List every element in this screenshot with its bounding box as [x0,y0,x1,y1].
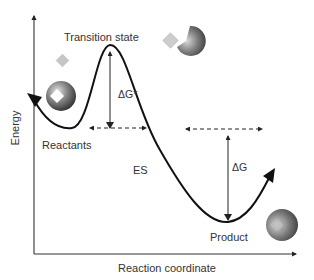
product-enzyme-sphere-icon [266,209,298,241]
free-energy-label: ΔG [232,161,247,173]
activation-energy-arrow [106,52,114,129]
activation-energy-label: ΔG* [118,88,137,100]
y-axis-label: Energy [9,111,21,146]
es-label: ES [133,164,148,176]
transition-enzyme-icon [163,26,206,56]
curve-end-arrowhead [263,168,275,183]
reactant-enzyme-sphere-icon [46,81,76,111]
x-axis-label: Reaction coordinate [118,262,216,274]
free-energy-arrow [224,136,232,221]
substrate-diamond-icon [56,54,69,67]
curve-start-arrowhead [27,93,42,107]
energy-curve [27,45,275,222]
product-label: Product [210,231,248,243]
transition-state-label: Transition state [64,31,139,43]
reactants-label: Reactants [42,139,92,151]
